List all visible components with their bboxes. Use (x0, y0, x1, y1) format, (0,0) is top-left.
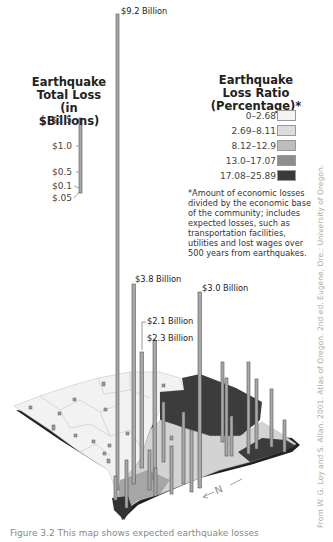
legend-label: 8.12–12.9 (231, 141, 276, 151)
scale-ticks (74, 120, 79, 198)
bar-2-3-billion (153, 340, 156, 480)
bar-3-0-billion (198, 292, 201, 488)
tick-0-05: $.05 (42, 193, 72, 203)
legend-swatch (277, 125, 296, 136)
legend-item: 2.69–8.11 (200, 125, 310, 139)
credit-text: From W. G. Loy and S. Allan. 2001. Atlas… (316, 165, 325, 528)
figure-caption: Figure 3.2 This map shows expected earth… (10, 528, 259, 538)
legend-label: 17.08–25.89 (220, 171, 276, 181)
label-3-0-billion: $3.0 Billion (202, 283, 248, 293)
legend-item: 8.12–12.9 (200, 140, 310, 154)
tick-0-5: $0.5 (42, 167, 72, 177)
legend-swatch (277, 170, 296, 181)
loss-ratio-title: Earthquake Loss Ratio (Percentage)* (176, 74, 333, 113)
footnote: *Amount of economic losses divided by th… (188, 188, 312, 258)
leader-line (142, 322, 146, 350)
label-9-2-billion: $9.2 Billion (121, 6, 167, 16)
source-credit: From W. G. Loy and S. Allan. 2001. Atlas… (316, 148, 326, 528)
legend-label: 0–2.68 (246, 111, 276, 121)
legend-label: 13.0–17.07 (226, 156, 276, 166)
legend-label: 2.69–8.11 (231, 126, 276, 136)
legend-item: 0–2.68 (200, 110, 310, 124)
label-3-8-billion: $3.8 Billion (135, 274, 181, 284)
tick-0-1: $0.1 (42, 181, 72, 191)
bar-2-1-billion (140, 352, 143, 468)
legend-swatch (277, 140, 296, 151)
tick-1-0: $1.0 (42, 141, 72, 151)
bar-3-8-billion (132, 284, 135, 484)
legend-item: 17.08–25.89 (200, 170, 310, 184)
legend-item: 13.0–17.07 (200, 155, 310, 169)
bar-9-2-billion (116, 14, 119, 490)
legend-swatch (277, 110, 296, 121)
tick-1-5: $1.5 (42, 115, 72, 125)
legend-swatch (277, 155, 296, 166)
scale-bar (79, 118, 82, 193)
label-2-1-billion: $2.1 Billion (147, 316, 193, 326)
label-2-3-billion: $2.3 Billion (147, 333, 193, 343)
